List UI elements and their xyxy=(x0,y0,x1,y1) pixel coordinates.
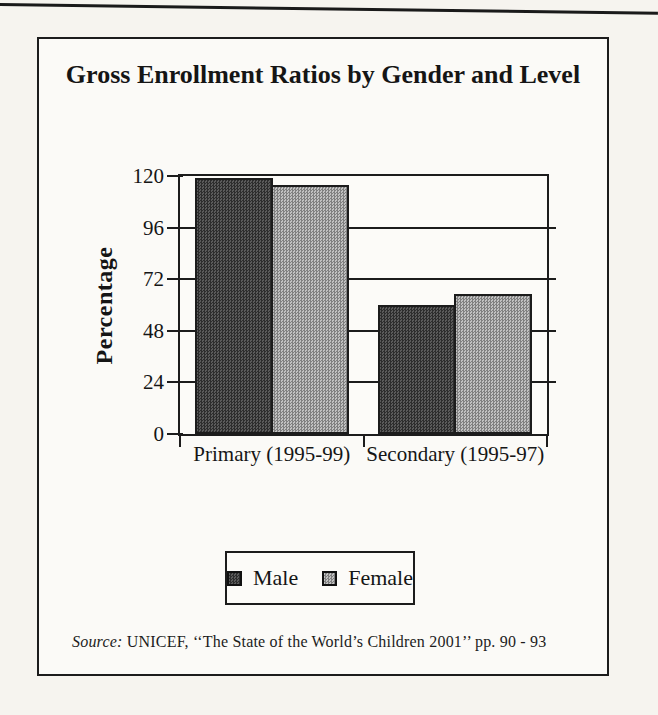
y-tick-label-120: 120 xyxy=(104,163,164,189)
bar-female-0 xyxy=(271,185,349,434)
y-axis-title: Percentage xyxy=(92,246,119,364)
y-tick-label-48: 48 xyxy=(104,318,164,344)
y-tick-right-96 xyxy=(546,227,556,229)
y-tick-right-72 xyxy=(546,278,556,280)
legend-swatch-female xyxy=(322,571,337,586)
x-tick-2 xyxy=(546,436,548,447)
x-category-label-1: Secondary (1995-97) xyxy=(366,442,544,467)
legend-label-male: Male xyxy=(253,565,298,591)
source-text: UNICEF, ‘‘The State of the World’s Child… xyxy=(123,633,547,650)
y-tick-right-24 xyxy=(546,381,556,383)
legend-label-female: Female xyxy=(348,565,413,591)
source-note: Source: UNICEF, ‘‘The State of the World… xyxy=(72,633,546,651)
y-tick-72 xyxy=(167,278,183,280)
x-tick-1 xyxy=(363,436,365,447)
y-tick-48 xyxy=(167,330,183,332)
y-tick-24 xyxy=(167,381,183,383)
y-tick-right-48 xyxy=(546,330,556,332)
bar-male-1 xyxy=(378,305,456,434)
source-prefix: Source: xyxy=(72,633,123,650)
y-tick-label-96: 96 xyxy=(104,215,164,241)
y-tick-label-0: 0 xyxy=(104,421,164,447)
legend: Male Female xyxy=(225,551,415,605)
y-tick-label-24: 24 xyxy=(104,369,164,395)
chart-frame: Gross Enrollment Ratios by Gender and Le… xyxy=(37,37,609,676)
x-category-label-0: Primary (1995-99) xyxy=(193,442,350,467)
chart-title: Gross Enrollment Ratios by Gender and Le… xyxy=(63,57,583,92)
y-tick-120 xyxy=(167,175,183,177)
legend-swatch-male xyxy=(227,571,242,586)
bar-female-1 xyxy=(454,294,532,434)
y-tick-96 xyxy=(167,227,183,229)
plot-area: Percentage 024487296120Primary (1995-99)… xyxy=(178,174,549,436)
y-tick-label-72: 72 xyxy=(104,266,164,292)
y-tick-0 xyxy=(167,433,183,435)
x-tick-0 xyxy=(179,436,181,447)
bar-male-0 xyxy=(195,178,273,434)
page-top-rule xyxy=(0,3,658,15)
